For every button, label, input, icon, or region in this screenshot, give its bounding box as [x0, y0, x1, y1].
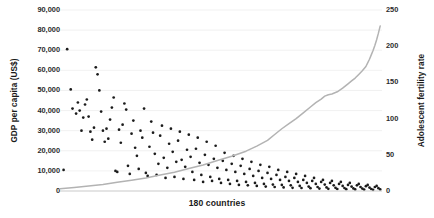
scatter-point [314, 183, 317, 186]
scatter-point [238, 184, 241, 187]
chart-figure: GDP per capita (US$) Adolescent fertilit… [0, 0, 434, 218]
scatter-point [202, 181, 205, 184]
scatter-point [159, 134, 162, 137]
scatter-point [354, 188, 357, 191]
scatter-point [227, 179, 230, 182]
scatter-point [309, 187, 312, 190]
x-axis-title: 180 countries [0, 198, 434, 208]
scatter-point [130, 132, 133, 135]
scatter-point [259, 164, 262, 167]
scatter-point [137, 168, 140, 171]
y-left-tick-label: 30,000 [37, 127, 60, 134]
scatter-point [379, 188, 382, 191]
scatter-point [175, 160, 178, 163]
scatter-point [246, 184, 249, 187]
scatter-point [357, 183, 360, 186]
scatter-point [252, 175, 255, 178]
scatter-point [284, 176, 287, 179]
y-left-tick-label: 80,000 [37, 26, 60, 33]
scatter-point [295, 173, 298, 176]
y-left-tick-label: 70,000 [37, 46, 60, 53]
scatter-point [118, 128, 121, 131]
scatter-point [161, 124, 164, 127]
scatter-point [230, 163, 233, 166]
scatter-point [313, 177, 316, 180]
scatter-point [236, 180, 239, 183]
scatter-point [282, 186, 285, 189]
scatter-point [173, 176, 176, 179]
plot-svg [60, 10, 382, 191]
scatter-point [214, 144, 217, 147]
scatter-point [273, 186, 276, 189]
scatter-point [102, 129, 105, 132]
scatter-point [125, 108, 128, 111]
scatter-point [189, 155, 192, 158]
y-axis-right-title: Adolescent fertility rate [417, 41, 426, 161]
scatter-point [261, 177, 264, 180]
scatter-point [336, 188, 339, 191]
scatter-point [245, 181, 248, 184]
scatter-point [87, 115, 90, 118]
scatter-point [304, 175, 307, 178]
scatter-point [195, 147, 198, 150]
scatter-point [329, 182, 332, 185]
scatter-point [279, 179, 282, 182]
scatter-point [91, 138, 94, 141]
scatter-point [225, 169, 228, 172]
scatter-point [143, 107, 146, 110]
scatter-point [277, 169, 280, 172]
scatter-point [184, 166, 187, 169]
scatter-point [152, 131, 155, 134]
scatter-point [205, 140, 208, 143]
y-axis-left-title: GDP per capita (US$) [10, 41, 19, 161]
scatter-point [306, 182, 309, 185]
scatter-point [75, 112, 78, 115]
scatter-point [153, 152, 156, 155]
scatter-point [375, 185, 378, 188]
scatter-point [139, 129, 142, 132]
scatter-point [291, 186, 294, 189]
scatter-point [187, 133, 190, 136]
scatter-point [243, 173, 246, 176]
scatter-point [270, 178, 273, 181]
scatter-point [193, 179, 196, 182]
scatter-point [141, 136, 144, 139]
scatter-point [166, 167, 169, 170]
scatter-point [327, 187, 330, 190]
scatter-point [332, 184, 335, 187]
scatter-point [300, 187, 303, 190]
scatter-points [62, 48, 381, 191]
scatter-point [89, 130, 92, 133]
scatter-point [77, 101, 80, 104]
scatter-point [145, 172, 148, 175]
scatter-point [121, 123, 124, 126]
y-left-tick-label: 20,000 [37, 147, 60, 154]
scatter-point [168, 142, 171, 145]
scatter-point [116, 171, 119, 174]
scatter-point [347, 184, 350, 187]
scatter-point [293, 177, 296, 180]
scatter-point [286, 171, 289, 174]
scatter-point [345, 188, 348, 191]
scatter-point [128, 173, 131, 176]
scatter-point [263, 183, 266, 186]
scatter-point [212, 157, 215, 160]
scatter-point [216, 167, 219, 170]
scatter-point [182, 178, 185, 181]
scatter-point [311, 180, 314, 183]
scatter-point [96, 73, 99, 76]
scatter-point [82, 116, 85, 119]
scatter-point [69, 88, 72, 91]
scatter-point [223, 151, 226, 154]
y-right-tick-label: 50 [386, 151, 394, 158]
scatter-point [134, 146, 137, 149]
scatter-point [85, 98, 88, 101]
scatter-point [94, 66, 97, 69]
scatter-point [105, 127, 108, 130]
scatter-point [100, 110, 103, 113]
scatter-point [331, 180, 334, 183]
plot-area [60, 10, 382, 191]
scatter-point [323, 183, 326, 186]
scatter-point [220, 182, 223, 185]
y-right-tick-label: 200 [386, 42, 398, 49]
